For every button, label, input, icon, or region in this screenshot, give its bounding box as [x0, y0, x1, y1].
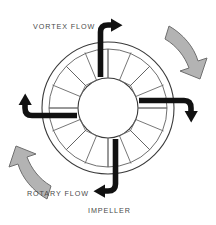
- impeller-flow-diagram: VORTEX FLOW ROTARY FLOW IMPELLER: [0, 0, 216, 225]
- upper-right-rotary-arrow: [165, 26, 207, 79]
- impeller-hub: [78, 78, 138, 138]
- rotary-flow-label: ROTARY FLOW: [27, 189, 89, 198]
- impeller-label: IMPELLER: [88, 206, 131, 215]
- vortex-flow-label: VORTEX FLOW: [33, 22, 95, 31]
- impeller-wheel: [42, 42, 174, 174]
